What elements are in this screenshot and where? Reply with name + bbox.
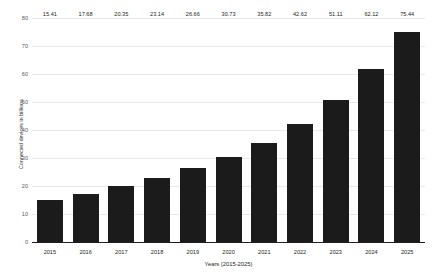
y-axis-tick-label: 70 — [22, 43, 28, 49]
x-axis-title: Years (2015-2025) — [32, 261, 425, 267]
x-axis-tick-label: 2021 — [246, 246, 282, 258]
bar-group: 30.73 — [211, 19, 247, 243]
bar-value-label: 35.82 — [257, 11, 271, 17]
bar-value-label: 75.44 — [400, 11, 414, 17]
bar[interactable]: 62.12 — [358, 69, 384, 243]
bar-value-label: 42.62 — [293, 11, 307, 17]
bar-value-label: 51.11 — [329, 11, 343, 17]
x-axis-line — [32, 242, 425, 243]
x-axis-tick-label: 2024 — [354, 246, 390, 258]
bar-group: 17.68 — [68, 19, 104, 243]
bar-group: 20.35 — [103, 19, 139, 243]
bar-group: 42.62 — [282, 19, 318, 243]
bar[interactable]: 30.73 — [216, 157, 242, 243]
y-axis-tick-label: 10 — [22, 211, 28, 217]
bar-chart: Connected devices in billions 0102030405… — [0, 0, 440, 279]
bar-value-label: 26.66 — [186, 11, 200, 17]
x-axis-tick-label: 2017 — [103, 246, 139, 258]
plot-area: 01020304050607080 15.4117.6820.3523.1426… — [32, 19, 425, 243]
y-axis-tick-label: 60 — [22, 71, 28, 77]
bar[interactable]: 15.41 — [37, 200, 63, 243]
x-axis-tick-label: 2025 — [389, 246, 425, 258]
bar[interactable]: 51.11 — [323, 100, 349, 243]
bar[interactable]: 23.14 — [144, 178, 170, 243]
y-axis-tick-label: 40 — [22, 127, 28, 133]
bar-group: 26.66 — [175, 19, 211, 243]
bar-value-label: 17.68 — [79, 11, 93, 17]
x-axis-tick-label: 2023 — [318, 246, 354, 258]
bar-value-label: 20.35 — [114, 11, 128, 17]
y-axis-tick-label: 30 — [22, 155, 28, 161]
bar-value-label: 62.12 — [364, 11, 378, 17]
bar-group: 15.41 — [32, 19, 68, 243]
bar-group: 35.82 — [246, 19, 282, 243]
x-axis-tick-label: 2015 — [32, 246, 68, 258]
bar[interactable]: 17.68 — [73, 194, 99, 244]
x-axis-tick-label: 2020 — [211, 246, 247, 258]
bar-value-label: 30.73 — [222, 11, 236, 17]
x-axis-tick-label: 2019 — [175, 246, 211, 258]
x-axis-tick-label: 2016 — [68, 246, 104, 258]
bar[interactable]: 42.62 — [287, 124, 313, 243]
y-axis-tick-label: 20 — [22, 183, 28, 189]
bar-group: 75.44 — [389, 19, 425, 243]
bar[interactable]: 35.82 — [251, 143, 277, 243]
bar-value-label: 23.14 — [150, 11, 164, 17]
bar-group: 62.12 — [354, 19, 390, 243]
bar[interactable]: 75.44 — [394, 32, 420, 243]
y-axis-tick-label: 0 — [25, 239, 28, 245]
y-axis-tick-label: 50 — [22, 99, 28, 105]
bars-layer: 15.4117.6820.3523.1426.6630.7335.8242.62… — [32, 19, 425, 243]
bar-group: 51.11 — [318, 19, 354, 243]
bar[interactable]: 20.35 — [108, 186, 134, 243]
x-axis-tick-label: 2022 — [282, 246, 318, 258]
bar-group: 23.14 — [139, 19, 175, 243]
bar-value-label: 15.41 — [43, 11, 57, 17]
y-axis-tick-label: 80 — [22, 15, 28, 21]
x-axis-tick-label: 2018 — [139, 246, 175, 258]
bar[interactable]: 26.66 — [180, 168, 206, 243]
x-axis-tick-labels: 2015201620172018201920202021202220232024… — [32, 246, 425, 258]
